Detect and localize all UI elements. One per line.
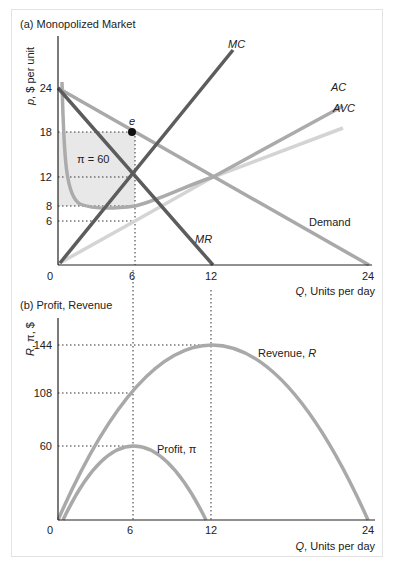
panel-b-title: (b) Profit, Revenue xyxy=(20,299,112,311)
xtick-b-0: 0 xyxy=(47,524,53,536)
ytick-144: 144 xyxy=(34,339,52,351)
xtick-b-24: 24 xyxy=(362,524,374,536)
ytick-6: 6 xyxy=(46,215,52,227)
label-e: e xyxy=(129,115,135,127)
panel-a-xlabel: Q, Units per day xyxy=(296,285,376,297)
revenue-curve xyxy=(58,345,368,520)
ytick-108: 108 xyxy=(34,387,52,399)
panel-b-xlabel: Q, Units per day xyxy=(296,540,376,552)
label-demand: Demand xyxy=(309,216,351,228)
label-revenue: Revenue, R xyxy=(258,347,316,359)
label-ac: AC xyxy=(330,81,346,93)
xtick-b-6: 6 xyxy=(127,524,133,536)
ytick-18: 18 xyxy=(40,126,52,138)
label-mr: MR xyxy=(195,233,212,245)
equilibrium-point xyxy=(128,128,136,136)
xtick-0: 0 xyxy=(47,270,53,282)
panel-a-ylabel: p, $ per unit xyxy=(24,47,36,106)
label-profit: Profit, π xyxy=(157,443,197,455)
xtick-b-12: 12 xyxy=(205,524,217,536)
label-profit-area: π = 60 xyxy=(77,153,109,165)
xtick-6: 6 xyxy=(129,270,135,282)
profit-curve xyxy=(63,446,206,520)
ytick-8: 8 xyxy=(46,200,52,212)
label-mc: MC xyxy=(228,38,245,50)
profit-area xyxy=(58,132,135,206)
xtick-24: 24 xyxy=(362,270,374,282)
ytick-24: 24 xyxy=(40,82,52,94)
ytick-60: 60 xyxy=(40,440,52,452)
label-avc: AVC xyxy=(332,102,355,114)
ytick-12: 12 xyxy=(40,171,52,183)
chart-svg: (a) Monopolized Market p, $ per unit e 2… xyxy=(0,0,393,575)
panel-a-title: (a) Monopolized Market xyxy=(20,18,136,30)
xtick-12: 12 xyxy=(205,270,217,282)
